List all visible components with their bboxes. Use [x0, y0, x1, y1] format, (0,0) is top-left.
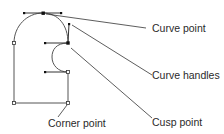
leader-curve-handles [72, 25, 152, 75]
lower-handle-endpoint[interactable] [44, 71, 46, 73]
label-corner-point: Corner point [48, 118, 106, 129]
bottom-right-corner-anchor[interactable] [67, 102, 70, 105]
left-corner-anchor[interactable] [13, 42, 16, 45]
bezier-path [14, 13, 68, 103]
label-curve-point: Curve point [152, 23, 206, 34]
cusp-handle-left-endpoint[interactable] [44, 42, 46, 44]
curve-point-anchor[interactable] [42, 12, 45, 15]
cusp-handle-up [68, 24, 69, 43]
bottom-left-corner-anchor[interactable] [13, 102, 16, 105]
leader-cusp-point [71, 48, 152, 118]
path-diagram [0, 0, 224, 134]
lower-inner-anchor[interactable] [67, 71, 70, 74]
cusp-point-anchor[interactable] [66, 41, 69, 44]
label-curve-handles: Curve handles [152, 70, 220, 81]
cusp-handle-up-endpoint[interactable] [68, 23, 70, 25]
label-cusp-point: Cusp point [152, 117, 202, 128]
handle-endpoint-right[interactable] [60, 12, 62, 14]
leader-corner-point [58, 105, 67, 117]
handle-endpoint-left[interactable] [23, 12, 25, 14]
